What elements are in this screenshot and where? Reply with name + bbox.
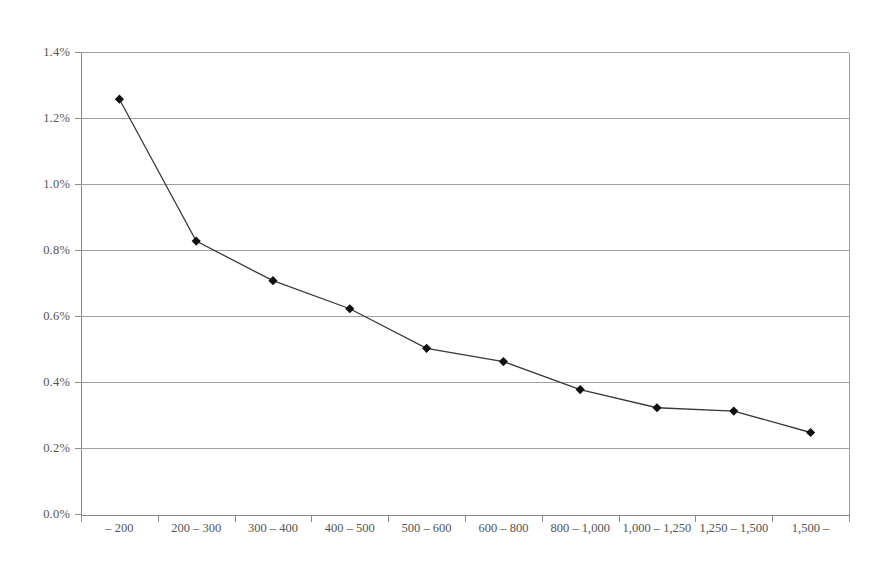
x-axis-tick-label: 300 – 400 <box>235 521 312 536</box>
x-axis-tick-label: 1,000 – 1,250 <box>619 521 696 536</box>
y-axis-tick-label: 1.0% <box>10 178 70 191</box>
y-axis-tick-label: 1.2% <box>10 112 70 125</box>
x-axis-tick-label: 400 – 500 <box>311 521 388 536</box>
y-axis-tick-mark <box>75 52 81 53</box>
y-axis-line <box>81 53 82 515</box>
gridline <box>81 118 849 119</box>
y-axis-tick-label: 0.0% <box>10 508 70 521</box>
y-axis-tick-label: 0.4% <box>10 376 70 389</box>
gridline <box>81 382 849 383</box>
y-axis-tick-label: 1.4% <box>10 46 70 59</box>
y-axis-tick-mark <box>75 250 81 251</box>
x-axis-tick-label: 200 – 300 <box>158 521 235 536</box>
gridline <box>81 52 849 53</box>
y-axis-tick-mark <box>75 448 81 449</box>
gridline <box>81 184 849 185</box>
x-axis-tick-label: 600 – 800 <box>465 521 542 536</box>
x-axis-tick-label: 800 – 1,000 <box>542 521 619 536</box>
gridline <box>81 316 849 317</box>
y-axis-tick-mark <box>75 316 81 317</box>
x-axis-tick-label: 1,250 – 1,500 <box>695 521 772 536</box>
plot-area <box>81 53 849 515</box>
y-axis-tick-label: 0.6% <box>10 310 70 323</box>
gridline <box>81 448 849 449</box>
x-axis-tick-label: – 200 <box>81 521 158 536</box>
y-axis-tick-mark <box>75 382 81 383</box>
x-axis-tick-label: 500 – 600 <box>388 521 465 536</box>
y-axis-tick-label: 0.2% <box>10 442 70 455</box>
line-chart: 0.0%0.2%0.4%0.6%0.8%1.0%1.2%1.4% – 20020… <box>0 0 891 565</box>
y-axis-tick-label: 0.8% <box>10 244 70 257</box>
x-axis-tick-mark <box>849 515 850 522</box>
gridline <box>81 250 849 251</box>
plot-frame-right <box>849 53 850 515</box>
x-axis-tick-label: 1,500 – <box>772 521 849 536</box>
y-axis-tick-mark <box>75 118 81 119</box>
y-axis-tick-mark <box>75 184 81 185</box>
